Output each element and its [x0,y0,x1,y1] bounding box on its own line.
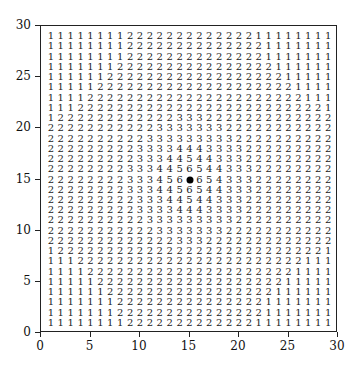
grid-value: 2 [194,318,204,328]
grid-value: 2 [145,318,155,328]
grid-value: 2 [244,318,254,328]
y-tick-label: 25 [7,69,31,83]
y-tick [35,76,40,77]
grid-value: 2 [175,318,185,328]
x-tick-label: 25 [280,339,295,353]
grid-value: 1 [313,318,323,328]
grid-value: 1 [254,318,264,328]
y-tick-label: 15 [7,172,31,186]
x-tick [337,332,338,337]
x-tick-label: 5 [86,339,94,353]
grid-value: 1 [264,318,274,328]
x-tick [189,332,190,337]
y-tick-label: 5 [7,274,31,288]
plot-area: 1111111122222222222221111111111111111222… [40,25,337,332]
y-tick [35,25,40,26]
x-tick-label: 10 [131,339,146,353]
grid-value: 2 [234,318,244,328]
grid-value: 1 [293,318,303,328]
grid-value: 2 [204,318,214,328]
grid-value: 2 [214,318,224,328]
y-tick-label: 10 [7,223,31,237]
x-tick-label: 15 [181,339,196,353]
y-tick [35,332,40,333]
grid-value: 1 [323,318,333,328]
y-tick-label: 0 [7,325,31,339]
x-tick [40,332,41,337]
x-tick [139,332,140,337]
x-tick-label: 30 [329,339,344,353]
grid-value: 1 [76,318,86,328]
grid-value: 2 [185,318,195,328]
x-tick-label: 20 [230,339,245,353]
grid-value: 1 [46,318,56,328]
grid-value: 1 [86,318,96,328]
y-tick [35,127,40,128]
grid-value: 2 [155,318,165,328]
y-tick [35,179,40,180]
y-tick-label: 30 [7,18,31,32]
x-tick [90,332,91,337]
grid-value: 1 [303,318,313,328]
grid-value: 2 [125,318,135,328]
grid-value: 1 [115,318,125,328]
x-tick [288,332,289,337]
grid-value: 2 [135,318,145,328]
center-marker-icon [186,176,193,183]
y-tick-label: 20 [7,120,31,134]
grid-value: 1 [274,318,284,328]
grid-value: 1 [105,318,115,328]
grid-value: 1 [284,318,294,328]
x-tick-label: 0 [36,339,44,353]
grid-value: 2 [224,318,234,328]
grid-value: 1 [56,318,66,328]
grid-value: 6 [185,164,195,174]
grid-value: 1 [66,318,76,328]
x-tick [238,332,239,337]
y-tick [35,230,40,231]
grid-value: 2 [165,318,175,328]
y-tick [35,281,40,282]
grid-value: 1 [95,318,105,328]
